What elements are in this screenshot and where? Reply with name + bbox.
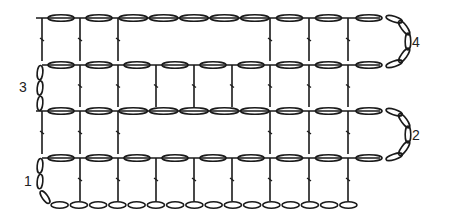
double-crochet-stitch [40, 18, 44, 61]
chain-stitch [385, 59, 403, 70]
row-3 [42, 62, 382, 107]
double-crochet-stitch [307, 158, 311, 201]
row-label-4: 4 [412, 35, 420, 49]
chain-stitch [37, 158, 44, 173]
chain-stitch [37, 174, 44, 189]
chain-stitch [205, 202, 222, 208]
double-crochet-stitch [268, 65, 272, 107]
double-crochet-stitch [78, 111, 82, 154]
chain-stitch [70, 202, 87, 208]
chain-stitch [147, 202, 164, 208]
chain-stitch [385, 152, 403, 163]
double-crochet-stitch [116, 111, 120, 154]
chain-stitch [37, 96, 44, 111]
turning-chain-right [385, 14, 411, 69]
chain-stitch [385, 107, 403, 118]
chain-stitch [109, 202, 126, 208]
double-crochet-stitch [268, 158, 272, 201]
double-crochet-stitch [268, 111, 272, 154]
double-crochet-stitch [154, 65, 158, 107]
chain-stitch [385, 14, 403, 25]
chain-stitch [397, 47, 412, 64]
double-crochet-stitch [230, 158, 234, 201]
double-crochet-stitch [307, 18, 311, 61]
foundation-chain [51, 202, 357, 208]
chain-stitch [51, 202, 68, 208]
chain-stitch [90, 202, 107, 208]
double-crochet-stitch [307, 111, 311, 154]
chain-stitch [186, 202, 203, 208]
double-crochet-stitch [346, 158, 350, 201]
turning-chain-left [37, 65, 44, 110]
chain-stitch [301, 202, 318, 208]
double-crochet-stitch [346, 111, 350, 154]
double-crochet-stitch [307, 65, 311, 107]
turning-chains [37, 14, 412, 205]
double-crochet-stitch [78, 65, 82, 107]
double-crochet-stitch [78, 158, 82, 201]
double-crochet-stitch [230, 65, 234, 107]
double-crochet-stitch [346, 18, 350, 61]
stitch-rows [36, 15, 382, 201]
chain-stitch [282, 202, 299, 208]
row-label-3: 3 [19, 80, 27, 94]
row-2 [36, 108, 382, 154]
row-label-1: 1 [24, 174, 32, 188]
row-4 [36, 15, 382, 61]
double-crochet-stitch [116, 18, 120, 61]
row-label-2: 2 [412, 128, 420, 142]
double-crochet-stitch [192, 65, 196, 107]
chain-stitch [224, 202, 241, 208]
double-crochet-stitch [346, 65, 350, 107]
chain-stitch [263, 202, 280, 208]
double-crochet-stitch [40, 111, 44, 154]
double-crochet-stitch [192, 158, 196, 201]
chain-stitch [321, 202, 338, 208]
double-crochet-stitch [78, 18, 82, 61]
double-crochet-stitch [154, 158, 158, 201]
chain-stitch [128, 202, 145, 208]
chain-stitch [167, 202, 184, 208]
turning-chain-left [37, 158, 52, 204]
double-crochet-stitch [116, 158, 120, 201]
turning-chain-right [385, 107, 411, 162]
chain-stitch [397, 140, 412, 157]
chain-stitch [37, 81, 44, 96]
row-1 [42, 155, 382, 201]
chain-stitch [39, 190, 52, 205]
double-crochet-stitch [268, 18, 272, 61]
chain-stitch [340, 202, 357, 208]
chain-stitch [37, 65, 44, 80]
double-crochet-stitch [116, 65, 120, 107]
crochet-chart [0, 0, 449, 223]
chain-stitch [244, 202, 261, 208]
